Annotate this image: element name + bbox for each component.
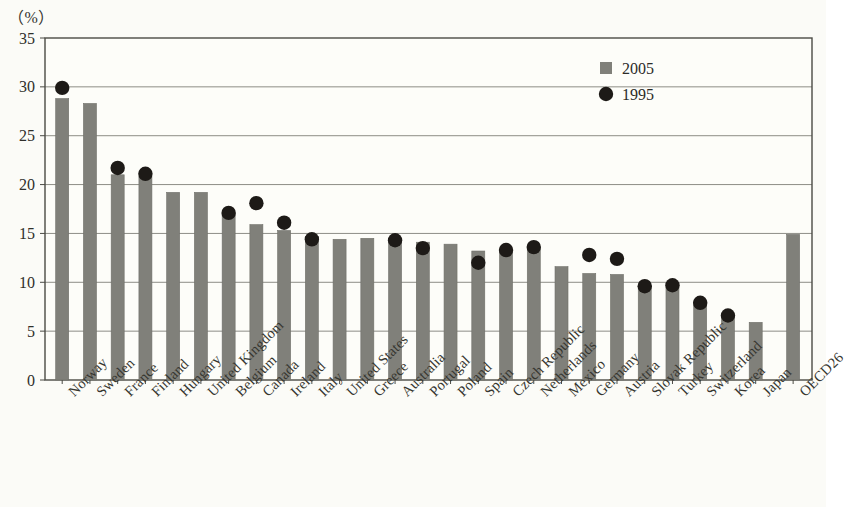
bar — [111, 175, 124, 380]
y-axis-tick-label: 5 — [27, 323, 35, 340]
data-point-marker — [110, 161, 124, 175]
bar — [333, 239, 346, 380]
data-point-marker — [55, 81, 69, 95]
bar — [56, 99, 69, 380]
bar — [749, 322, 762, 380]
bar — [139, 177, 152, 380]
bar — [500, 249, 513, 380]
y-axis-tick-label: 15 — [19, 225, 35, 242]
data-point-marker — [138, 167, 152, 181]
y-axis-tick-label: 30 — [19, 78, 35, 95]
data-point-marker — [305, 232, 319, 246]
bar — [527, 247, 540, 380]
data-point-marker — [693, 296, 707, 310]
bar — [250, 225, 263, 380]
bar — [278, 231, 291, 381]
legend-circle-marker — [599, 87, 613, 101]
bar — [638, 285, 651, 380]
data-point-marker — [665, 278, 679, 292]
bar — [361, 238, 374, 380]
bar — [194, 192, 207, 380]
bar — [787, 234, 800, 380]
legend-square-marker — [600, 62, 612, 74]
data-point-marker — [388, 233, 402, 247]
bar — [167, 192, 180, 380]
y-axis-tick-label: 25 — [19, 127, 35, 144]
bar — [666, 285, 679, 380]
bar — [583, 273, 596, 380]
bar — [222, 213, 235, 380]
data-point-marker — [471, 256, 485, 270]
data-point-marker — [416, 241, 430, 255]
y-axis-tick-label: 0 — [27, 372, 35, 389]
y-axis-tick-label: 35 — [19, 30, 35, 47]
y-axis-tick-label: 10 — [19, 274, 35, 291]
data-point-marker — [527, 240, 541, 254]
bar — [305, 236, 318, 380]
bar — [416, 242, 429, 380]
bar — [694, 302, 707, 380]
bar — [610, 274, 623, 380]
bar — [389, 238, 402, 380]
y-axis-tick-label: 20 — [19, 176, 35, 193]
data-point-marker — [582, 248, 596, 262]
legend-label-2005: 2005 — [622, 60, 654, 77]
data-point-marker — [221, 206, 235, 220]
bar — [472, 251, 485, 380]
data-point-marker — [277, 215, 291, 229]
bar — [83, 103, 96, 380]
bar — [444, 244, 457, 380]
data-point-marker — [721, 308, 735, 322]
bar — [721, 316, 734, 380]
data-point-marker — [499, 243, 513, 257]
data-point-marker — [610, 252, 624, 266]
data-point-marker — [249, 196, 263, 210]
data-point-marker — [638, 279, 652, 293]
legend-label-1995: 1995 — [622, 86, 654, 103]
bar — [555, 267, 568, 380]
